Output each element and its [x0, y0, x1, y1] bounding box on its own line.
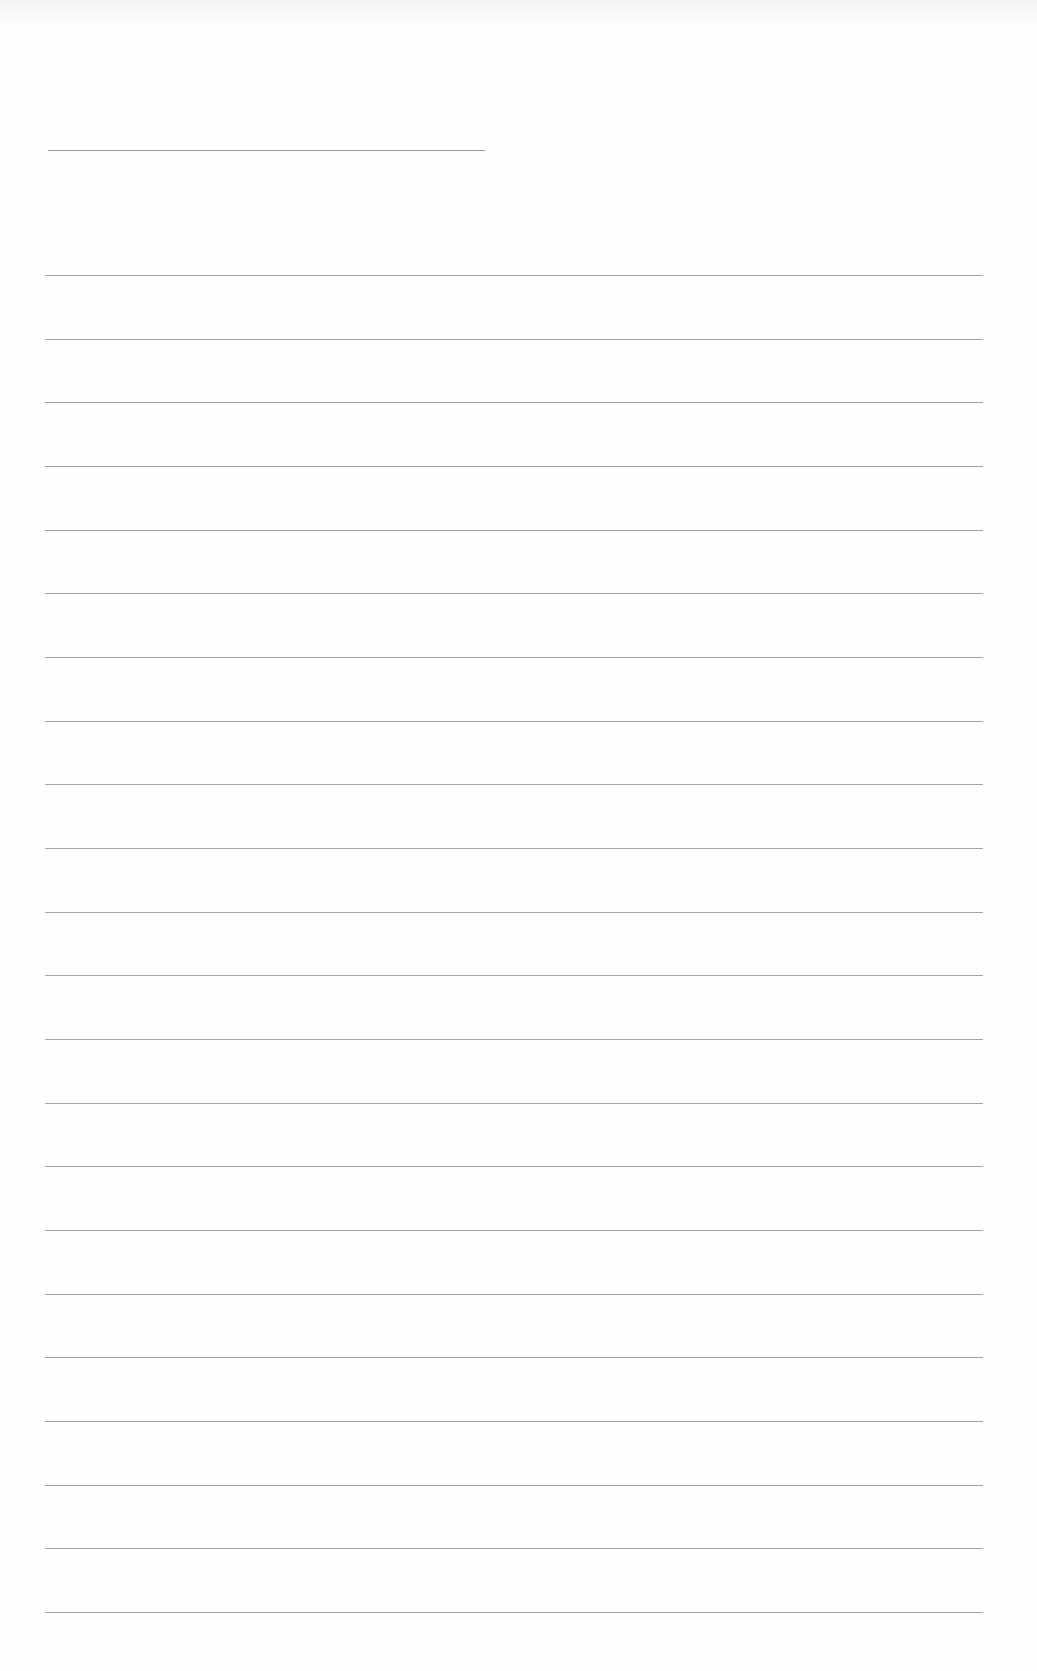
ruled-line [45, 1485, 983, 1486]
ruled-line [45, 1230, 983, 1231]
ruled-line [45, 275, 983, 276]
ruled-line [45, 1166, 983, 1167]
ruled-line [45, 1357, 983, 1358]
ruled-line [45, 402, 983, 403]
ruled-line [45, 1421, 983, 1422]
ruled-line [45, 593, 983, 594]
ruled-line [45, 530, 983, 531]
ruled-line [45, 466, 983, 467]
ruled-line [45, 721, 983, 722]
ruled-line [45, 339, 983, 340]
ruled-line [45, 912, 983, 913]
ruled-line [45, 784, 983, 785]
ruled-line [45, 1103, 983, 1104]
ruled-line [45, 1548, 983, 1549]
ruled-line [45, 975, 983, 976]
ruled-page [0, 0, 1037, 1671]
scan-bleed-through [0, 0, 1037, 30]
ruled-line [45, 657, 983, 658]
header-title-line [48, 150, 485, 151]
ruled-line [45, 1294, 983, 1295]
ruled-line [45, 848, 983, 849]
ruled-line [45, 1039, 983, 1040]
ruled-line [45, 1612, 983, 1613]
